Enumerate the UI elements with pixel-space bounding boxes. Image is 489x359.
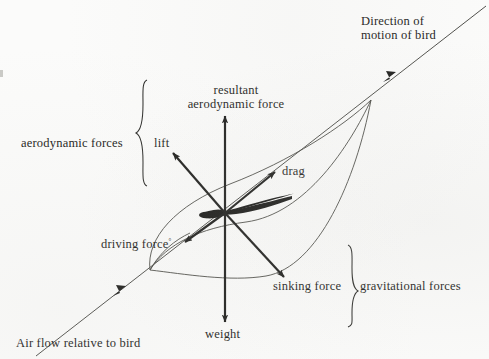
air-flow-label: Air flow relative to bird: [16, 336, 140, 350]
driving-force-degree-mark: °: [169, 237, 172, 245]
force-vectors: [173, 116, 284, 322]
driving-force-text: driving force: [101, 237, 169, 251]
direction-of-motion-line1: Direction of: [361, 14, 424, 28]
direction-of-motion-arrowhead: [383, 71, 396, 82]
aerodynamic-forces-brace: [136, 80, 147, 186]
aerodynamic-forces-label: aerodynamic forces: [21, 136, 123, 150]
scan-edge-artifact: [0, 70, 3, 77]
resultant-line2: aerodynamic force: [188, 97, 285, 111]
bird-flight-force-diagram: Direction of motion of bird resultant ae…: [0, 0, 489, 359]
lift-arrow: [173, 153, 225, 213]
direction-of-motion-label: Direction of motion of bird: [361, 14, 436, 42]
sinking-force-label: sinking force: [273, 279, 341, 293]
gravitational-forces-brace: [348, 245, 358, 327]
lift-label: lift: [154, 136, 169, 150]
diagram-canvas: [0, 0, 489, 359]
drag-label: drag: [282, 164, 305, 178]
flight-path-line: [36, 6, 486, 356]
driving-force-label: driving force°: [101, 234, 172, 251]
flight-axis-group: [36, 6, 486, 356]
sinking-force-arrow: [225, 213, 284, 277]
bird-silhouette: [199, 193, 296, 220]
resultant-line1: resultant: [214, 83, 259, 97]
weight-label: weight: [205, 327, 240, 341]
gravitational-forces-label: gravitational forces: [360, 279, 461, 293]
direction-of-motion-line2: motion of bird: [361, 28, 436, 42]
resultant-aerodynamic-force-label: resultant aerodynamic force: [180, 83, 292, 111]
